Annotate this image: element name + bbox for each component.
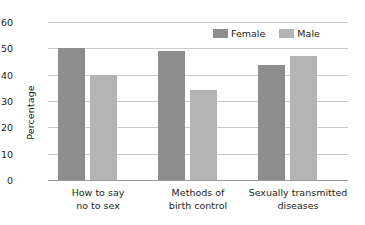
y-tick-label-40: 40 bbox=[0, 69, 13, 80]
bar-male bbox=[190, 90, 217, 180]
y-tick-label-20: 20 bbox=[0, 122, 13, 133]
bar-chart: Percentage 0102030405060 Female Male How… bbox=[0, 0, 365, 225]
x-axis-label-line: diseases bbox=[234, 199, 362, 212]
y-tick-label-30: 30 bbox=[0, 96, 13, 107]
bar-female bbox=[58, 48, 85, 180]
bar-female bbox=[158, 51, 185, 180]
legend-item-female: Female bbox=[213, 29, 265, 39]
bar-male bbox=[290, 56, 317, 180]
legend-swatch-female-icon bbox=[213, 29, 228, 38]
y-tick-label-60: 60 bbox=[0, 17, 13, 28]
x-axis-label: Sexually transmitteddiseases bbox=[234, 186, 362, 212]
bars-layer bbox=[48, 22, 348, 180]
bar-group bbox=[148, 22, 248, 180]
gridline-0 bbox=[48, 180, 348, 181]
legend-label-male: Male bbox=[297, 29, 320, 39]
legend-item-male: Male bbox=[279, 29, 320, 39]
legend-label-female: Female bbox=[231, 29, 265, 39]
y-tick-label-50: 50 bbox=[0, 43, 13, 54]
bar-female bbox=[258, 65, 285, 180]
legend: Female Male bbox=[213, 29, 320, 39]
bar-group bbox=[248, 22, 348, 180]
y-tick-label-0: 0 bbox=[0, 175, 13, 186]
bar-group bbox=[48, 22, 148, 180]
x-axis-labels: How to sayno to sexMethods ofbirth contr… bbox=[48, 186, 348, 224]
legend-swatch-male-icon bbox=[279, 29, 294, 38]
bar-male bbox=[90, 75, 117, 180]
y-tick-label-10: 10 bbox=[0, 148, 13, 159]
x-axis-label-line: Sexually transmitted bbox=[234, 186, 362, 199]
